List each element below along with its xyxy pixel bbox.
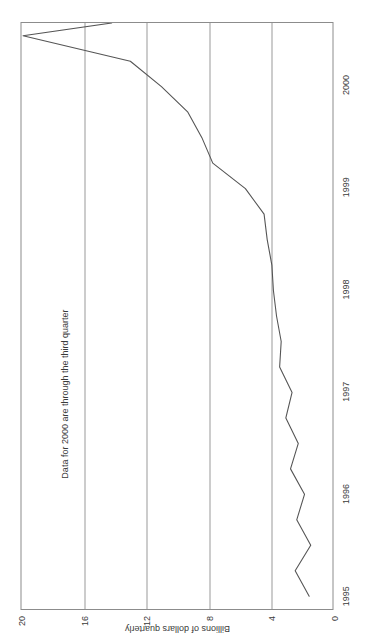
x-axis-tick-label: 1996 — [340, 484, 350, 504]
chart-annotation: Data for 2000 are through the third quar… — [59, 310, 69, 479]
y-axis-tick-label: 16 — [79, 616, 89, 626]
y-axis-tick-label: 0 — [329, 616, 339, 621]
y-axis-tick-label: 20 — [16, 616, 26, 626]
y-axis-title: Billions of dollars quarterly — [20, 622, 333, 636]
x-axis-tick-label: 1998 — [340, 279, 350, 299]
plot-area: 201612840 199519961997199819992000 Data … — [20, 22, 333, 610]
y-axis-tick-label: 8 — [204, 616, 214, 621]
y-axis-tick-label: 4 — [266, 616, 276, 621]
y-axis-title-label: Billions of dollars quarterly — [124, 624, 229, 634]
line-chart-figure: Billions of dollars quarterly 201612840 … — [0, 0, 373, 644]
y-axis-tick-label: 12 — [141, 616, 151, 626]
x-axis-tick-label: 1995 — [340, 586, 350, 606]
x-axis-tick-label: 1999 — [340, 177, 350, 197]
x-axis-tick-label: 2000 — [340, 75, 350, 95]
chart-rotator: Billions of dollars quarterly 201612840 … — [0, 0, 373, 644]
x-axis-tick-label: 1997 — [340, 382, 350, 402]
